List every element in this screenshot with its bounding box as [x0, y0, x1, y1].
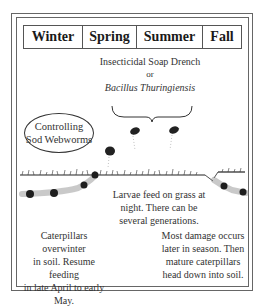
larvae-note-line-1: Larvae feed on grass at — [104, 188, 214, 201]
winter-note-line-2: in soil. Resume feeding — [18, 255, 110, 281]
larvae-note-line-2: night. There can be — [104, 201, 214, 214]
winter-note-line-4: May. — [18, 294, 110, 307]
larvae-note-line-3: several generations. — [104, 214, 214, 227]
winter-note-line-3: in late April to early — [18, 281, 110, 294]
larvae-note: Larvae feed on grass at night. There can… — [104, 188, 214, 227]
winter-note-line-1: Caterpillars overwinter — [18, 229, 110, 255]
brace-icon — [112, 106, 192, 122]
fall-note-line-2: later in season. Then — [160, 242, 246, 255]
moth-icon — [105, 125, 180, 155]
fall-note-line-4: head down into soil. — [160, 268, 246, 281]
fall-note: Most damage occurs later in season. Then… — [160, 229, 246, 281]
fall-note-line-1: Most damage occurs — [160, 229, 246, 242]
fall-note-line-3: mature caterpillars — [160, 255, 246, 268]
winter-note: Caterpillars overwinter in soil. Resume … — [18, 229, 110, 307]
